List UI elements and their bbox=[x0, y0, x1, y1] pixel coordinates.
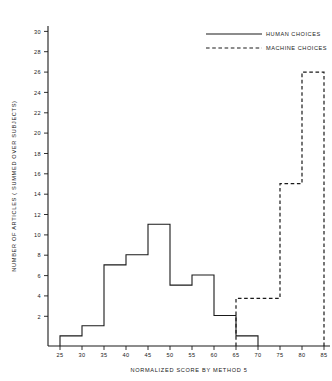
y-tick-label: 30 bbox=[34, 29, 41, 35]
x-tick-label: 35 bbox=[101, 352, 108, 358]
y-tick-label: 6 bbox=[38, 273, 41, 279]
y-tick-label: 24 bbox=[34, 90, 41, 96]
x-tick-label: 40 bbox=[123, 352, 130, 358]
x-tick-label: 65 bbox=[233, 352, 240, 358]
x-tick-label: 55 bbox=[189, 352, 196, 358]
y-tick-label: 12 bbox=[34, 212, 41, 218]
legend-label-human: HUMAN CHOICES bbox=[266, 31, 321, 37]
x-tick-label: 25 bbox=[57, 352, 64, 358]
y-axis-title: NUMBER OF ARTICLES ( SUMMED OVER SUBJECT… bbox=[11, 100, 17, 271]
chart-figure: 30 28 26 24 22 20 18 16 14 12 10 8 6 bbox=[0, 0, 332, 381]
y-tick-label: 4 bbox=[38, 293, 41, 299]
x-tick-label: 80 bbox=[299, 352, 306, 358]
x-axis-title: NORMALIZED SCORE BY METHOD 5 bbox=[130, 367, 247, 373]
y-tick-label: 26 bbox=[34, 69, 41, 75]
y-tick-label: 20 bbox=[34, 130, 41, 136]
y-tick-label: 28 bbox=[34, 49, 41, 55]
y-tick-label: 8 bbox=[38, 252, 41, 258]
x-tick-label: 75 bbox=[277, 352, 284, 358]
y-tick-label: 14 bbox=[34, 191, 41, 197]
histogram-chart: 30 28 26 24 22 20 18 16 14 12 10 8 6 bbox=[0, 0, 332, 381]
y-tick-label: 18 bbox=[34, 151, 41, 157]
y-tick-label: 2 bbox=[38, 314, 41, 320]
x-tick-label: 85 bbox=[321, 352, 328, 358]
x-tick-label: 50 bbox=[167, 352, 174, 358]
x-tick-label: 30 bbox=[79, 352, 86, 358]
y-tick-label: 10 bbox=[34, 232, 41, 238]
x-tick-label: 45 bbox=[145, 352, 152, 358]
x-tick-label: 70 bbox=[255, 352, 262, 358]
y-tick-label: 22 bbox=[34, 110, 41, 116]
x-tick-label: 60 bbox=[211, 352, 218, 358]
y-tick-label: 16 bbox=[34, 171, 41, 177]
chart-background bbox=[0, 0, 332, 381]
legend-label-machine: MACHINE CHOICES bbox=[266, 45, 327, 51]
